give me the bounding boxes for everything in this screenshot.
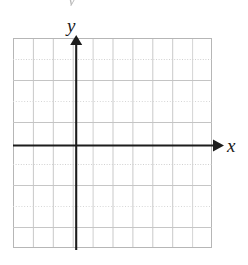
y-axis-label: y bbox=[67, 16, 75, 35]
graph-figure: y bbox=[0, 0, 248, 265]
scan-artifact-glyph: y bbox=[68, 0, 79, 6]
grid-svg bbox=[13, 38, 212, 248]
x-axis-arrowhead bbox=[213, 140, 224, 152]
coordinate-grid bbox=[13, 38, 212, 248]
x-axis-label: x bbox=[227, 136, 235, 155]
